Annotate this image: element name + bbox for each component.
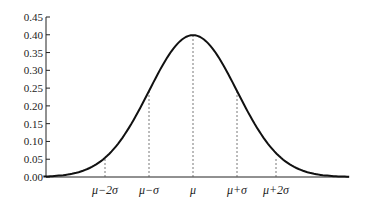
y-tick-label: 0.25 bbox=[24, 82, 44, 94]
x-tick-label: μ−σ bbox=[138, 183, 160, 197]
y-tick-label: 0.00 bbox=[24, 171, 44, 183]
y-tick-label: 0.35 bbox=[24, 47, 44, 59]
x-tick-label: μ−2σ bbox=[91, 183, 119, 197]
y-tick-label: 0.10 bbox=[24, 135, 44, 147]
x-tick-label: μ+σ bbox=[226, 183, 248, 197]
sigma-lines bbox=[105, 35, 276, 177]
y-tick-label: 0.20 bbox=[24, 100, 44, 112]
y-tick-label: 0.30 bbox=[24, 64, 44, 76]
normal-distribution-chart: 0.000.050.100.150.200.250.300.350.400.45… bbox=[0, 0, 367, 207]
y-tick-label: 0.05 bbox=[24, 153, 44, 165]
x-ticks: μ−2σμ−σμμ+σμ+2σ bbox=[91, 183, 290, 197]
y-tick-label: 0.40 bbox=[24, 29, 44, 41]
x-tick-label: μ bbox=[189, 183, 196, 197]
density-curve bbox=[43, 35, 349, 177]
y-tick-label: 0.15 bbox=[24, 118, 44, 130]
x-tick-label: μ+2σ bbox=[262, 183, 290, 197]
y-tick-label: 0.45 bbox=[24, 11, 44, 23]
